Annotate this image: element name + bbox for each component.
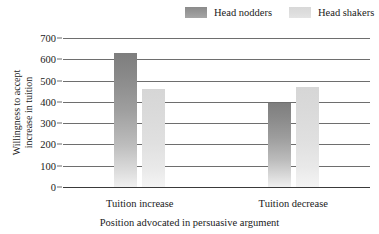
chart-legend: Head nodders Head shakers [185,4,379,21]
y-axis-title-line2: increase in tuition [23,70,35,156]
bar-head-shakers-tuition-decrease [296,87,319,187]
x-axis-title: Position advocated in persuasive argumen… [0,217,379,229]
legend-swatch-head-shakers [289,7,311,18]
y-tick-mark-0 [57,187,62,188]
y-axis-title: Willingness to accept increase in tuitio… [11,38,35,187]
y-tick-mark-700 [57,38,62,39]
legend-item-head-shakers: Head shakers [289,4,374,21]
y-tick-label-100: 100 [40,160,56,171]
legend-item-head-nodders: Head nodders [185,4,272,21]
legend-label-head-shakers: Head shakers [318,7,374,19]
y-tick-label-500: 500 [40,75,56,86]
y-tick-mark-100 [57,165,62,166]
y-tick-label-200: 200 [40,139,56,150]
gridline-200 [63,144,370,145]
y-tick-mark-600 [57,59,62,60]
bar-head-nodders-tuition-decrease [268,103,291,187]
y-axis-title-line1: Willingness to accept [12,70,24,156]
gridline-500 [63,81,370,82]
legend-swatch-head-nodders [185,7,207,18]
bar-head-nodders-tuition-increase [114,53,137,187]
y-tick-label-400: 400 [40,96,56,107]
gridline-700 [63,38,370,39]
y-tick-label-0: 0 [51,182,56,193]
gridline-600 [63,59,370,60]
y-tick-label-700: 700 [40,33,56,44]
plot-area: 7006005004003002001000Tuition increaseTu… [63,38,370,187]
x-category-label-1: Tuition decrease [259,198,328,210]
gridline-300 [63,123,370,124]
y-tick-mark-500 [57,80,62,81]
gridline-0 [63,187,370,188]
y-tick-mark-300 [57,123,62,124]
y-tick-mark-200 [57,144,62,145]
bar-head-shakers-tuition-increase [142,89,165,187]
legend-label-head-nodders: Head nodders [214,7,272,19]
gridline-400 [63,102,370,103]
y-tick-label-300: 300 [40,118,56,129]
gridline-100 [63,166,370,167]
x-category-label-0: Tuition increase [106,198,174,210]
y-tick-mark-400 [57,101,62,102]
y-tick-label-600: 600 [40,54,56,65]
